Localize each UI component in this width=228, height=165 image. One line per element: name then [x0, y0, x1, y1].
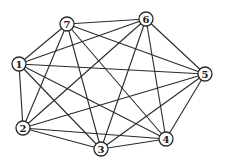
node-4: 4: [159, 132, 173, 146]
edge-1-2: [19, 64, 23, 128]
edge-2-7: [23, 24, 67, 128]
node-label: 7: [64, 19, 71, 30]
edge-1-4: [19, 64, 166, 139]
node-7: 7: [60, 17, 74, 31]
complete-graph-diagram: 1234567: [0, 0, 228, 165]
node-2: 2: [16, 121, 30, 135]
node-label: 6: [143, 14, 150, 25]
edge-4-6: [146, 19, 166, 139]
node-3: 3: [94, 142, 108, 156]
node-label: 3: [98, 144, 105, 155]
node-label: 4: [163, 134, 170, 145]
node-1: 1: [12, 57, 26, 71]
edge-5-6: [146, 19, 205, 74]
node-5: 5: [198, 67, 212, 81]
edge-3-4: [101, 139, 166, 149]
edge-1-7: [19, 24, 67, 64]
edge-5-7: [67, 24, 205, 74]
edge-3-7: [67, 24, 101, 149]
node-label: 5: [202, 69, 209, 80]
node-6: 6: [139, 12, 153, 26]
edge-4-7: [67, 24, 166, 139]
edge-1-3: [19, 64, 101, 149]
node-label: 2: [20, 123, 27, 134]
node-label: 1: [16, 59, 23, 70]
edge-layer: [19, 19, 205, 149]
